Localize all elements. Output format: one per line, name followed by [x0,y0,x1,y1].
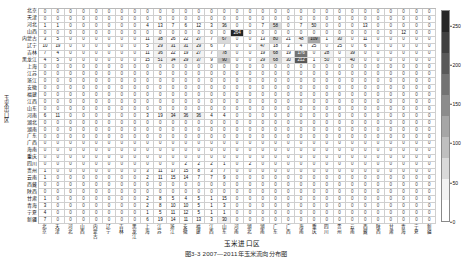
heatmap-cell: 4 [295,44,308,51]
heatmap-cell: 0 [141,85,154,92]
heatmap-cell: 7 [218,169,231,176]
heatmap-cell: 0 [193,120,206,127]
heatmap-cell: 0 [141,99,154,106]
heatmap-cell: 0 [231,113,244,120]
heatmap-cell: 0 [218,120,231,127]
heatmap-cell: 0 [244,196,257,203]
heatmap-cell: 0 [423,9,436,16]
heatmap-cell: 10 [167,203,180,210]
heatmap-cell: 0 [295,64,308,71]
heatmap-cell: 3 [205,169,218,176]
heatmap-cell: 0 [90,127,103,134]
heatmap-cell: 0 [321,189,334,196]
heatmap-cell: 0 [385,58,398,65]
heatmap-cell: 0 [385,134,398,141]
heatmap-cell: 0 [321,85,334,92]
heatmap-cell: 0 [308,64,321,71]
heatmap-cell: 0 [205,120,218,127]
heatmap-cell: 0 [385,37,398,44]
heatmap-cell: 0 [141,120,154,127]
heatmap-cell: 0 [193,92,206,99]
heatmap-cell: 0 [129,120,142,127]
heatmap-cell: 0 [334,182,347,189]
heatmap-cell: 1 [321,37,334,44]
heatmap-cell: 0 [410,210,423,217]
heatmap-cell: 0 [346,210,359,217]
heatmap-cell: 2 [193,162,206,169]
heatmap-cell: 0 [103,141,116,148]
row-label: 浙江 [12,78,38,85]
heatmap-cell: 0 [372,58,385,65]
heatmap-cell: 0 [270,64,283,71]
heatmap-cell: 0 [282,85,295,92]
heatmap-cell: 0 [129,169,142,176]
heatmap-cell: 0 [270,196,283,203]
heatmap-cell: 0 [167,71,180,78]
heatmap-cell: 0 [103,196,116,203]
heatmap-cell: 0 [154,182,167,189]
heatmap-cell: 0 [372,141,385,148]
heatmap-cell: 0 [385,155,398,162]
heatmap-cell: 0 [39,189,52,196]
heatmap-cell: 25 [308,44,321,51]
heatmap-cell: 0 [154,92,167,99]
heatmap-cell: 0 [359,141,372,148]
heatmap-cell: 0 [180,16,193,23]
colorbar-tick-label: 50 [453,180,459,185]
heatmap-cell: 0 [385,51,398,58]
heatmap-cell: 0 [231,203,244,210]
heatmap-cell: 0 [270,127,283,134]
heatmap-cell: 0 [141,92,154,99]
heatmap-cell: 0 [321,120,334,127]
heatmap-cell: 0 [334,106,347,113]
heatmap-cell: 0 [65,196,78,203]
heatmap-cell: 0 [308,113,321,120]
heatmap-cell: 0 [308,203,321,210]
heatmap-cell: 176 [295,51,308,58]
heatmap-cell: 0 [410,155,423,162]
heatmap-cell: 0 [423,217,436,224]
heatmap-cell: 0 [244,30,257,37]
heatmap-cell: 0 [180,182,193,189]
heatmap-cell: 0 [257,16,270,23]
heatmap-cell: 0 [308,120,321,127]
heatmap-cell: 0 [129,182,142,189]
heatmap-cell: 13 [257,37,270,44]
heatmap-cell: 0 [129,37,142,44]
heatmap-cell: 7 [39,217,52,224]
heatmap-cell: 0 [359,217,372,224]
heatmap-cell: 0 [231,92,244,99]
heatmap-cell: 0 [270,148,283,155]
heatmap-cell: 0 [359,106,372,113]
heatmap-cell: 0 [385,203,398,210]
heatmap-cell: 0 [193,78,206,85]
heatmap-cell: 0 [116,141,129,148]
heatmap-cell: 0 [398,217,411,224]
heatmap-cell: 29 [180,58,193,65]
heatmap-cell: 0 [346,169,359,176]
heatmap-cell: 0 [385,113,398,120]
heatmap-cell: 0 [141,71,154,78]
heatmap-cell: 0 [65,189,78,196]
heatmap-cell: 0 [167,120,180,127]
heatmap-cell: 0 [167,148,180,155]
heatmap-cell: 0 [257,127,270,134]
heatmap-cell: 0 [244,71,257,78]
heatmap-cell: 17 [167,169,180,176]
heatmap-cell: 0 [423,30,436,37]
heatmap-cell: 0 [282,148,295,155]
heatmap-cell: 1 [39,169,52,176]
heatmap-cell: 5 [167,196,180,203]
heatmap-cell: 0 [90,37,103,44]
heatmap-cell: 0 [167,92,180,99]
heatmap-cell: 0 [52,78,65,85]
heatmap-cell: 0 [244,210,257,217]
heatmap-cell: 0 [193,141,206,148]
heatmap-cell: 11 [154,175,167,182]
heatmap-cell: 0 [90,113,103,120]
heatmap-cell: 0 [372,189,385,196]
heatmap-cell: 0 [52,196,65,203]
heatmap-cell: 0 [218,64,231,71]
heatmap-cell: 0 [385,71,398,78]
heatmap-cell: 0 [372,134,385,141]
